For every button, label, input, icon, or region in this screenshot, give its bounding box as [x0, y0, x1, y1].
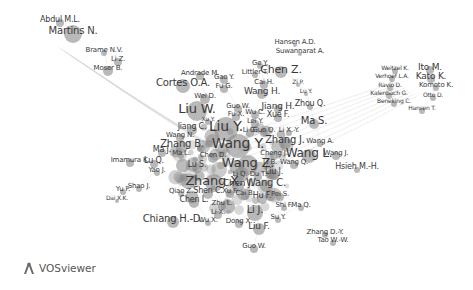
node-label[interactable]: Hansen T. [408, 105, 436, 111]
node-label[interactable]: Pei S. [271, 191, 289, 198]
node-label[interactable]: Hu F. [253, 192, 272, 200]
node-label[interactable]: Zhu L. [212, 200, 233, 207]
node-label[interactable]: Gao Y. [214, 74, 234, 81]
node-label[interactable]: Moser B. [94, 65, 123, 72]
node-label[interactable]: Guo Q. [253, 127, 276, 134]
node-label[interactable]: Wang Q. [280, 159, 308, 166]
vosviewer-logo-icon [22, 261, 36, 275]
node-label[interactable]: Kato K. [416, 72, 447, 81]
node-label[interactable]: Liu Y. [209, 119, 243, 133]
node-label[interactable]: Zhang J. [265, 135, 305, 145]
node-label[interactable]: Beneking C. [377, 98, 411, 104]
node-label[interactable]: Cai B. [235, 190, 254, 197]
node-label[interactable]: Fu X. [228, 111, 244, 118]
node-label[interactable]: Lu Q. [144, 157, 164, 165]
node-label[interactable]: Abdul M.L. [40, 16, 80, 24]
node-label[interactable]: Wang A. [306, 138, 333, 145]
node-label[interactable]: Cai H. [254, 79, 274, 86]
node-label[interactable]: Wang Y. [212, 136, 265, 150]
node-label[interactable]: Guo W. [242, 243, 266, 250]
node-label[interactable]: Cortes O.A. [156, 78, 210, 88]
node-label[interactable]: Dai X.K. [106, 195, 128, 201]
node-label[interactable]: Zi P. [292, 79, 303, 85]
node-label[interactable]: Li X.-Y. [279, 127, 299, 134]
node-label[interactable]: Martins N. [49, 26, 98, 36]
node-label[interactable]: Ma J. [153, 146, 171, 154]
node-label[interactable]: Lei Y. [247, 118, 263, 125]
node-label[interactable]: Xue F. [267, 111, 290, 119]
node-label[interactable]: Wang H. [244, 87, 280, 96]
node-label[interactable]: Littler T. [242, 69, 268, 76]
node-label[interactable]: Shen C. [193, 187, 222, 195]
node-label[interactable]: Wang J. [324, 150, 349, 157]
node-label[interactable]: Li B. [263, 159, 277, 166]
node-label[interactable]: Wu X. [198, 217, 217, 224]
node-label[interactable]: Lu Y. [300, 88, 312, 94]
node-label[interactable]: Chen L. [180, 196, 209, 204]
node-label[interactable]: Tao W.-W. [317, 237, 348, 244]
node-label[interactable]: Hansen A.D. [275, 39, 316, 46]
node-label[interactable]: Liu J. [265, 168, 283, 176]
node-label[interactable]: Shao J. [128, 183, 151, 190]
node-label[interactable]: Li X. [211, 209, 225, 216]
node-label[interactable]: Wang C. [246, 178, 286, 188]
node-label[interactable]: Kalenbach G. [370, 90, 407, 96]
node-label[interactable]: Qiao Z. [169, 188, 193, 195]
logo-text: VOSviewer [39, 262, 96, 274]
node-label[interactable]: Verhoef L.A. [375, 73, 409, 79]
node-label[interactable]: Ma Q. [291, 202, 310, 209]
node-label[interactable]: Yao J. [148, 167, 165, 174]
node-label[interactable]: Ravio D. [378, 82, 401, 88]
node-label[interactable]: Su Y. [270, 214, 285, 221]
node-label[interactable]: Wei D. [194, 93, 215, 100]
node-label[interactable]: Suwannarat A. [276, 48, 325, 55]
node-label[interactable]: Lu S. [188, 161, 207, 169]
node-label[interactable]: Wu C. [245, 109, 264, 116]
node-label[interactable]: Chiang H.-D. [143, 214, 204, 224]
node-label[interactable]: Ma L. [172, 150, 190, 157]
node-label[interactable]: Fu G. [216, 83, 233, 90]
node-label[interactable]: Otto D. [423, 92, 443, 98]
node-label[interactable]: Brame N.V. [86, 47, 123, 54]
node-label[interactable]: Liu W. [178, 102, 216, 115]
node-label[interactable]: Li J. [247, 205, 264, 215]
node-label[interactable]: Shi F. [276, 202, 293, 209]
node-label[interactable]: Ma S. [301, 116, 327, 126]
node-label[interactable]: Zhou Q. [295, 100, 326, 108]
node-label[interactable]: Komoto K. [419, 82, 453, 89]
node-label[interactable]: Zhang D.-Y. [307, 229, 344, 236]
node-label[interactable]: Hsieh M.-H. [335, 163, 379, 171]
node-label[interactable]: Liu F. [248, 222, 269, 231]
node-label[interactable]: Li Z. [111, 56, 125, 63]
vosviewer-logo: VOSviewer [22, 261, 96, 275]
node-label[interactable]: Weitzel K. [381, 65, 409, 71]
